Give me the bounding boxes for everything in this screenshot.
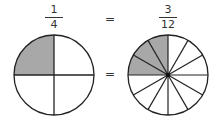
left-pie-circle bbox=[14, 35, 94, 115]
fraction-circles bbox=[0, 0, 218, 121]
right-pie-circle bbox=[128, 35, 208, 115]
